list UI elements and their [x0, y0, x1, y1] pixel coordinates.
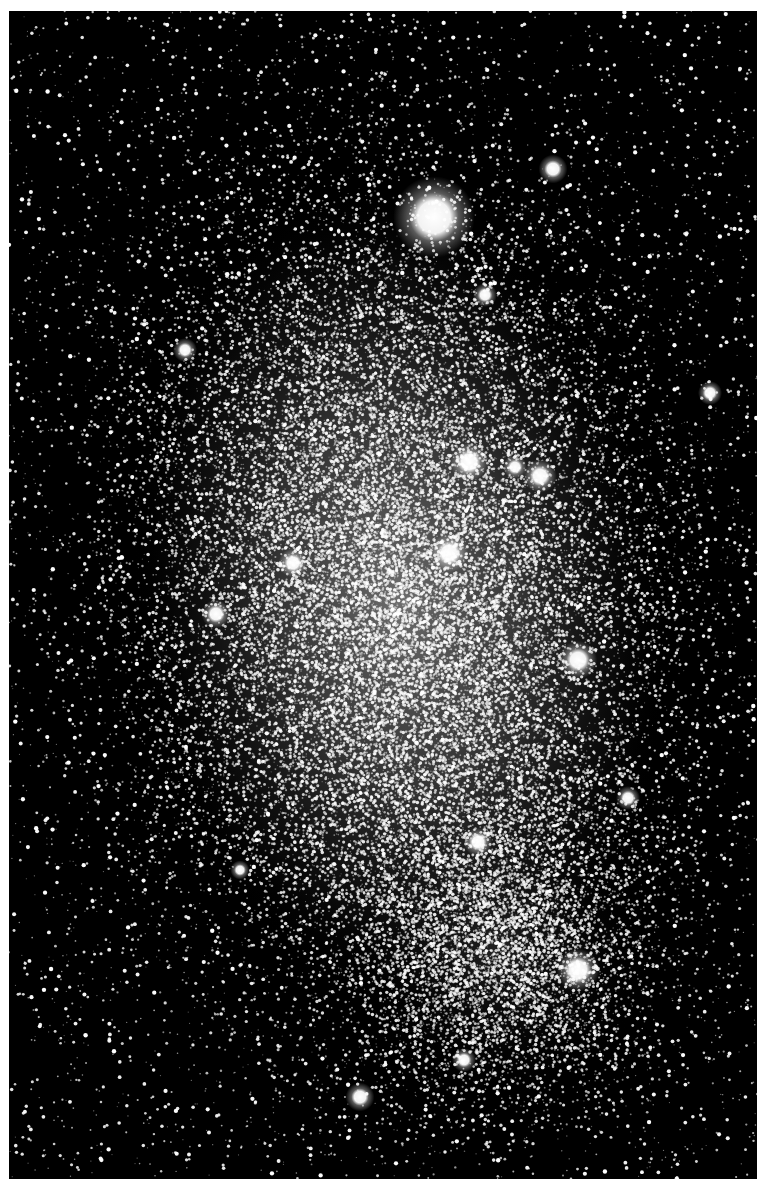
galaxy-photograph: [9, 11, 757, 1179]
starfield-canvas: [9, 11, 757, 1179]
